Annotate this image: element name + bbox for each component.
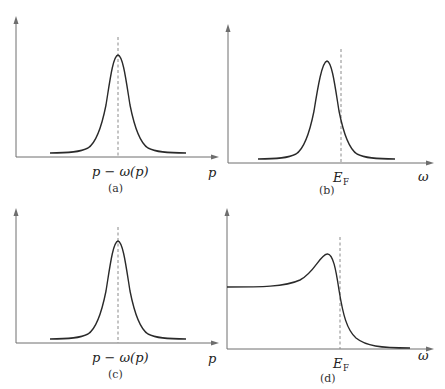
x-axis-arrow-icon xyxy=(211,155,219,160)
x-axis-arrow-icon xyxy=(211,341,219,346)
figure-canvas: p − ω(p) p (a) E F ω (b) p − ω(p) p (c) xyxy=(0,0,445,389)
x-axis-label: ω xyxy=(418,169,429,184)
fermi-level-label: E xyxy=(332,356,343,371)
fermi-level-label: E xyxy=(332,170,343,185)
spectral-curve xyxy=(258,61,395,159)
fermi-level-subscript: F xyxy=(343,363,349,373)
x-axis-label: ω xyxy=(418,348,429,363)
tick-label: p − ω(p) xyxy=(92,350,149,365)
panel-a: p − ω(p) p (a) xyxy=(14,16,220,195)
fermi-level-subscript: F xyxy=(343,177,349,187)
panel-caption: (a) xyxy=(108,182,123,195)
panel-caption: (b) xyxy=(319,184,335,197)
x-axis-label: p xyxy=(208,165,217,180)
spectral-curve xyxy=(227,254,410,348)
panel-caption: (d) xyxy=(320,372,336,385)
y-axis-arrow-icon xyxy=(225,208,230,216)
panel-d: E F ω (d) xyxy=(225,208,435,385)
y-axis-arrow-icon xyxy=(14,16,19,24)
panel-c: p − ω(p) p (c) xyxy=(14,208,220,381)
panel-b: E F ω (b) xyxy=(226,24,435,197)
y-axis-arrow-icon xyxy=(226,24,231,32)
tick-label: p − ω(p) xyxy=(92,164,149,179)
x-axis-label: p xyxy=(208,351,217,366)
panel-caption: (c) xyxy=(108,368,123,381)
y-axis-arrow-icon xyxy=(14,208,19,216)
x-axis-arrow-icon xyxy=(426,161,434,166)
